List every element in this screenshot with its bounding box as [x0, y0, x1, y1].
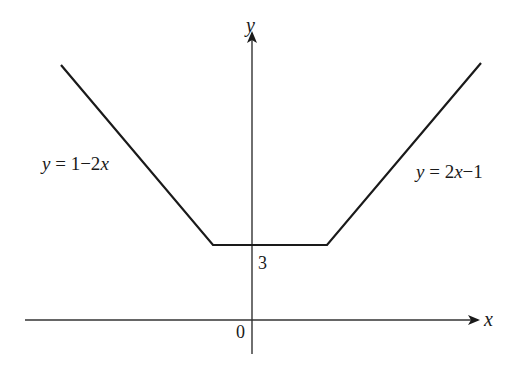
origin-label: 0 [236, 322, 245, 342]
x-axis-label: x [483, 308, 493, 330]
left-equation-label: y = 1−2x [40, 153, 109, 174]
right-equation-label: y = 2x−1 [414, 161, 483, 182]
y-axis-label: y [244, 14, 255, 37]
graph-canvas: y = 1−2x y = 2x−1 3 0 x y [0, 0, 522, 378]
function-graph [61, 63, 481, 245]
y-value-three-label: 3 [258, 253, 267, 273]
